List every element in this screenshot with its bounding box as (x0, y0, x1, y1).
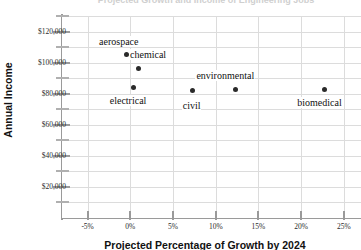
chart-title: Projected Growth and Income of Engineeri… (96, 0, 316, 5)
y-axis-tick-label: $80,000 (6, 89, 66, 98)
y-axis-minor-tick (56, 170, 69, 172)
y-axis-tick-label: $20,000 (6, 182, 66, 191)
gridline-vertical (173, 16, 174, 218)
scatter-chart: Projected Growth and Income of Engineeri… (0, 0, 361, 250)
y-axis-tick-label: $60,000 (6, 120, 66, 129)
x-axis-tick (257, 211, 259, 220)
data-point[interactable] (136, 66, 141, 71)
gridline-horizontal (62, 187, 361, 188)
x-axis-tick-label: 10% (196, 222, 236, 231)
data-point-label: chemical (129, 49, 167, 60)
gridline-vertical (88, 16, 89, 218)
data-point[interactable] (233, 87, 238, 92)
gridline-horizontal (62, 156, 361, 157)
x-axis-tick-label: 15% (238, 222, 278, 231)
y-axis-tick-label: $40,000 (6, 151, 66, 160)
x-axis-tick (129, 211, 131, 220)
x-axis-tick-label: -5% (68, 222, 108, 231)
y-axis-minor-tick (56, 108, 69, 110)
gridline-vertical (258, 16, 259, 218)
x-axis-tick-label: 20% (281, 222, 321, 231)
y-axis-tick-label: $100,000 (6, 58, 66, 67)
data-point-label: aerospace (98, 36, 139, 47)
x-axis-tick-label: 25% (324, 222, 361, 231)
gridline-horizontal (62, 63, 361, 64)
x-axis-tick-label: 0% (110, 222, 150, 231)
gridline-horizontal (62, 109, 361, 110)
x-axis-title: Projected Percentage of Growth by 2024 (55, 239, 355, 250)
gridline-horizontal (62, 47, 361, 48)
gridline-vertical (301, 16, 302, 218)
y-axis-minor-tick (56, 201, 69, 203)
gridline-vertical (216, 16, 217, 218)
gridline-horizontal (62, 16, 361, 17)
data-point-label: electrical (109, 95, 148, 106)
x-axis-tick (343, 211, 345, 220)
gridline-horizontal (62, 94, 361, 95)
x-axis-tick (172, 211, 174, 220)
y-axis-minor-tick (56, 139, 69, 141)
gridline-horizontal (62, 32, 361, 33)
data-point-label: environmental (195, 70, 255, 81)
x-axis-tick (300, 211, 302, 220)
x-axis-tick (87, 211, 89, 220)
x-axis-tick-label: 5% (153, 222, 193, 231)
y-axis-tick-label: $120,000 (6, 27, 66, 36)
y-axis-minor-tick (56, 46, 69, 48)
data-point-label: civil (182, 100, 202, 111)
data-point-label: biomedical (296, 97, 342, 108)
gridline-horizontal (62, 202, 361, 203)
y-axis-minor-tick (56, 77, 69, 79)
x-axis-tick (215, 211, 217, 220)
gridline-horizontal (62, 140, 361, 141)
gridline-vertical (344, 16, 345, 218)
gridline-horizontal (62, 125, 361, 126)
data-point[interactable] (322, 87, 327, 92)
y-axis-minor-tick (56, 15, 69, 17)
data-point[interactable] (124, 52, 129, 57)
gridline-horizontal (62, 171, 361, 172)
